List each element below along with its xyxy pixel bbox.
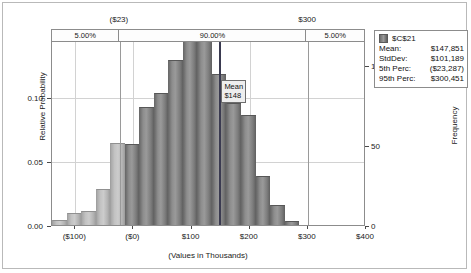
histogram-bars bbox=[52, 42, 364, 225]
legend-stat-key: Mean: bbox=[379, 44, 423, 54]
y-axis-right-tick-label: 0 bbox=[371, 222, 375, 231]
y-axis-right-tick-label: 50 bbox=[371, 142, 380, 151]
certainty-grabber-label-left[interactable]: ($23) bbox=[110, 15, 129, 24]
legend-stat-value: $147,851 bbox=[423, 44, 464, 54]
y-axis-right-tickmark bbox=[365, 66, 369, 67]
certainty-band-middle-label: 90.00% bbox=[200, 31, 225, 40]
x-axis-tick-label: ($0) bbox=[125, 232, 139, 241]
legend-color-swatch bbox=[379, 34, 388, 43]
x-axis-tickmark bbox=[365, 226, 366, 229]
histogram-bar bbox=[139, 107, 154, 225]
y-axis-left-title: Relative Probability bbox=[38, 42, 47, 172]
histogram-bar bbox=[256, 176, 271, 225]
legend-series-name: $C$21 bbox=[392, 34, 416, 43]
certainty-band-middle[interactable]: 90.00% bbox=[119, 30, 306, 41]
histogram-bar bbox=[241, 115, 256, 225]
histogram-bar bbox=[67, 213, 82, 225]
x-axis-tick-label: $200 bbox=[240, 232, 258, 241]
histogram-bar bbox=[270, 205, 285, 225]
x-axis-tickmark bbox=[307, 226, 308, 229]
chart-screenshot: ($23) $300 5.00% 90.00% 5.00% Mean $148 bbox=[0, 0, 471, 273]
x-axis-tick-label: ($100) bbox=[63, 232, 86, 241]
legend-stat-row: 95th Perc:$300,451 bbox=[379, 74, 464, 84]
y-axis-left-tickmark bbox=[47, 226, 51, 227]
legend-stat-value: $101,189 bbox=[423, 54, 464, 64]
x-axis-tick-label: $100 bbox=[182, 232, 200, 241]
histogram-bar bbox=[197, 42, 212, 225]
mean-marker-line[interactable] bbox=[219, 42, 221, 225]
chart-outer-frame: ($23) $300 5.00% 90.00% 5.00% Mean $148 bbox=[2, 2, 467, 269]
legend-stat-row: 5th Perc:($23,287) bbox=[379, 64, 464, 74]
legend-stat-value: $300,451 bbox=[423, 74, 464, 84]
certainty-band-upper-label: 5.00% bbox=[325, 31, 346, 40]
statistics-legend: $C$21 Mean:$147,851StdDev:$101,1895th Pe… bbox=[374, 30, 468, 88]
certainty-boundary-line[interactable] bbox=[120, 42, 121, 225]
legend-stat-row: StdDev:$101,189 bbox=[379, 54, 464, 64]
y-axis-right-tickmark bbox=[365, 146, 369, 147]
certainty-band-upper[interactable]: 5.00% bbox=[306, 30, 364, 41]
legend-header: $C$21 bbox=[379, 34, 464, 43]
legend-stat-rows: Mean:$147,851StdDev:$101,1895th Perc:($2… bbox=[379, 44, 464, 84]
y-axis-left-tickmark bbox=[47, 98, 51, 99]
mean-marker-label-line2: $148 bbox=[224, 91, 243, 100]
histogram-bar bbox=[81, 211, 96, 225]
certainty-band-lower-label: 5.00% bbox=[75, 31, 96, 40]
x-axis-tickmark bbox=[249, 226, 250, 229]
histogram-bar bbox=[52, 220, 67, 225]
certainty-band-lower[interactable]: 5.00% bbox=[52, 30, 119, 41]
histogram-bar bbox=[183, 42, 198, 225]
histogram-bar bbox=[226, 103, 241, 225]
x-axis-tickmark bbox=[74, 226, 75, 229]
certainty-boundary-line[interactable] bbox=[308, 42, 309, 225]
histogram-bar bbox=[168, 60, 183, 225]
y-axis-left-tickmark bbox=[47, 162, 51, 163]
histogram-bar bbox=[285, 221, 300, 225]
mean-marker-label-line1: Mean bbox=[224, 82, 243, 91]
legend-stat-key: StdDev: bbox=[379, 54, 423, 64]
histogram-bar bbox=[154, 93, 169, 225]
legend-stat-value: ($23,287) bbox=[423, 64, 464, 74]
histogram-bar bbox=[110, 143, 125, 225]
x-axis-title: (Values in Thousands) bbox=[51, 251, 365, 260]
histogram-bar bbox=[96, 189, 111, 225]
histogram-bar bbox=[125, 144, 140, 225]
legend-stat-key: 95th Perc: bbox=[379, 74, 423, 84]
certainty-band-strip[interactable]: 5.00% 90.00% 5.00% bbox=[51, 29, 365, 42]
x-axis-tickmark bbox=[191, 226, 192, 229]
legend-stat-row: Mean:$147,851 bbox=[379, 44, 464, 54]
x-axis-tick-label: $400 bbox=[356, 232, 374, 241]
y-axis-left-tick-label: 0.00 bbox=[13, 222, 43, 231]
x-axis-tickmark bbox=[132, 226, 133, 229]
mean-marker-label: Mean $148 bbox=[221, 80, 246, 103]
x-axis-tick-label: $300 bbox=[298, 232, 316, 241]
legend-stat-key: 5th Perc: bbox=[379, 64, 423, 74]
plot-area: Mean $148 bbox=[51, 42, 365, 226]
certainty-grabber-label-right[interactable]: $300 bbox=[298, 15, 316, 24]
